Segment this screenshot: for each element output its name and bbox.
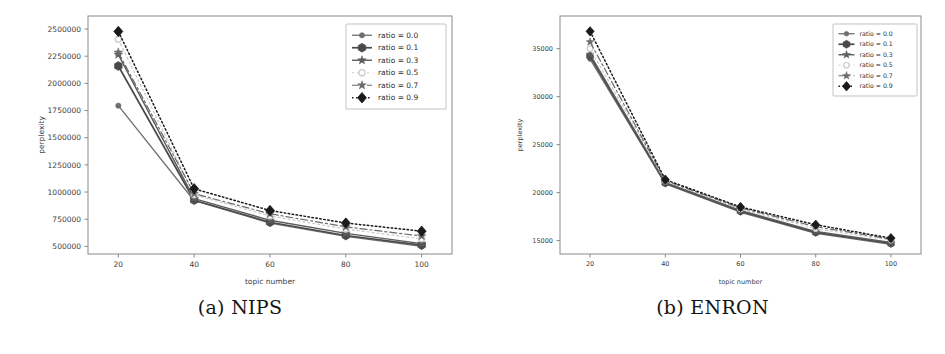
x-tick-label: 40 — [661, 260, 669, 268]
legend-marker — [844, 31, 849, 36]
x-tick-label: 20 — [114, 260, 124, 269]
y-tick-label: 2500000 — [48, 25, 82, 34]
y-tick-label: 1500000 — [48, 133, 82, 142]
legend-label: ratio = 0.7 — [378, 81, 419, 90]
legend-label: ratio = 0.5 — [378, 68, 419, 77]
legend-label: ratio = 0.1 — [378, 43, 419, 52]
y-tick-label: 25000 — [532, 141, 553, 149]
legend-label: ratio = 0.9 — [378, 93, 419, 102]
legend-marker — [359, 33, 364, 38]
y-tick-label: 2250000 — [48, 52, 82, 61]
plot-area-nips: 5000007500001000000125000015000001750000… — [0, 0, 480, 300]
legend-marker — [359, 70, 365, 76]
y-axis: 1500020000250003000035000 — [532, 45, 560, 245]
data-point — [114, 26, 123, 36]
y-tick-label: 1750000 — [48, 106, 82, 115]
x-tick-label: 20 — [586, 260, 594, 268]
legend-label: ratio = 0.3 — [860, 51, 893, 58]
y-axis-label: perplexity — [37, 116, 46, 154]
x-tick-label: 60 — [265, 260, 275, 269]
x-tick-label: 40 — [189, 260, 199, 269]
y-tick-label: 2000000 — [48, 79, 82, 88]
figure-row: 5000007500001000000125000015000001750000… — [0, 0, 945, 354]
legend-marker — [358, 43, 366, 52]
y-tick-label: 35000 — [532, 45, 553, 53]
plot-area-enron: 150002000025000300003500020406080100topi… — [480, 0, 945, 300]
x-axis-label: topic number — [245, 277, 296, 286]
legend-marker — [843, 40, 850, 48]
data-point — [586, 27, 594, 36]
y-tick-label: 20000 — [532, 189, 553, 197]
legend: ratio = 0.0ratio = 0.1ratio = 0.3ratio =… — [833, 24, 917, 96]
legend-label: ratio = 0.0 — [378, 31, 419, 40]
legend-label: ratio = 0.1 — [860, 40, 893, 47]
x-axis: 20406080100 — [114, 254, 429, 269]
x-tick-label: 100 — [415, 260, 430, 269]
series-0 — [116, 103, 425, 249]
chart-enron: 150002000025000300003500020406080100topi… — [480, 0, 945, 300]
legend-label: ratio = 0.0 — [860, 30, 893, 37]
subfigure-nips: 5000007500001000000125000015000001750000… — [0, 0, 480, 354]
x-axis-label: topic number — [719, 278, 763, 286]
data-point — [586, 38, 594, 45]
chart-nips: 5000007500001000000125000015000001750000… — [0, 0, 480, 300]
x-tick-label: 80 — [812, 260, 820, 268]
x-tick-label: 60 — [736, 260, 744, 268]
data-point — [116, 103, 121, 108]
y-tick-label: 1000000 — [48, 188, 82, 197]
y-tick-label: 15000 — [532, 237, 553, 245]
x-tick-label: 80 — [341, 260, 351, 269]
subfigure-enron: 150002000025000300003500020406080100topi… — [480, 0, 945, 354]
legend-label: ratio = 0.5 — [860, 61, 893, 68]
legend-label: ratio = 0.7 — [860, 72, 893, 79]
y-tick-label: 750000 — [52, 215, 81, 224]
y-tick-label: 30000 — [532, 93, 553, 101]
y-axis-label: perplexity — [516, 119, 524, 152]
legend-label: ratio = 0.9 — [860, 82, 893, 89]
legend-label: ratio = 0.3 — [378, 56, 419, 65]
data-point — [115, 62, 123, 71]
x-axis: 20406080100 — [586, 254, 897, 268]
x-tick-label: 100 — [885, 260, 897, 268]
legend: ratio = 0.0ratio = 0.1ratio = 0.3ratio =… — [346, 24, 446, 109]
y-axis: 5000007500001000000125000015000001750000… — [48, 25, 88, 251]
legend-marker — [844, 62, 850, 68]
y-tick-label: 1250000 — [48, 161, 82, 170]
y-tick-label: 500000 — [52, 242, 81, 251]
